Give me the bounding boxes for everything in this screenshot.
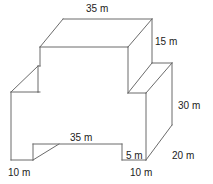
- dimension-label-right-notch: 5 m: [126, 150, 143, 161]
- edge-top-face-right-diagonal: [128, 19, 152, 47]
- geometry-figure: 35 m 15 m 30 m 20 m 35 m 5 m 10 m 10 m: [0, 0, 213, 184]
- dimension-label-bottom-right-leg: 10 m: [130, 167, 152, 178]
- dimension-label-front-width: 35 m: [70, 132, 92, 143]
- edge-left-notch-diagonal: [33, 144, 59, 160]
- edge-mid-step-inner-diagonal: [146, 63, 172, 93]
- dimension-label-bottom-diagonal: 20 m: [172, 150, 194, 161]
- dimension-label-right-height: 30 m: [178, 100, 200, 111]
- dimension-label-top-width: 35 m: [86, 3, 108, 14]
- edge-left-step-diagonal: [11, 66, 38, 92]
- edge-base-right-diagonal: [146, 125, 172, 160]
- edge-top-face-left-diagonal: [40, 19, 63, 47]
- dimension-label-bottom-left-leg: 10 m: [8, 167, 30, 178]
- edge-mid-step-diagonal-right: [128, 63, 152, 93]
- dimension-label-upper-depth: 15 m: [155, 36, 177, 47]
